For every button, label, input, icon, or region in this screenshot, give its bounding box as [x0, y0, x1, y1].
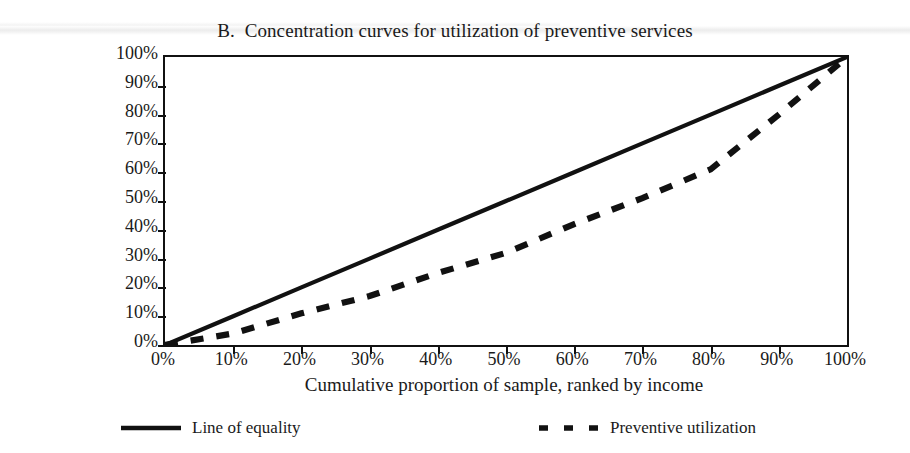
x-tick-label: 80%: [692, 349, 725, 370]
y-tick-label: 10%: [86, 302, 158, 323]
y-tick-label: 60%: [86, 158, 158, 179]
y-tick-label: 100%: [86, 43, 158, 64]
x-tick-label: 0%: [151, 349, 175, 370]
x-tick-label: 100%: [824, 349, 866, 370]
y-tick-label: 50%: [86, 187, 158, 208]
x-tick-label: 70%: [624, 349, 657, 370]
y-tick-label: 80%: [86, 101, 158, 122]
plot-area: [163, 55, 849, 347]
chart-legend: Line of equality Preventive utilization: [120, 415, 860, 441]
legend-label-line-of-equality: Line of equality: [192, 418, 301, 438]
legend-swatch-dashed-line: [538, 421, 600, 435]
figure-panel-b: B. Concentration curves for utilization …: [0, 0, 910, 453]
x-axis-title: Cumulative proportion of sample, ranked …: [163, 374, 845, 396]
solid-line-icon: [120, 421, 182, 435]
y-axis-tick: [158, 201, 166, 203]
y-axis-tick: [158, 287, 166, 289]
y-tick-label: 70%: [86, 129, 158, 150]
x-axis-tick-labels: 0%10%20%30%40%50%60%70%80%90%100%: [163, 349, 845, 375]
y-axis-tick: [158, 143, 166, 145]
legend-swatch-solid-line: [120, 421, 182, 435]
x-tick-label: 50%: [488, 349, 521, 370]
dashed-line-icon: [538, 421, 600, 435]
y-axis-tick: [158, 316, 166, 318]
x-tick-label: 30%: [351, 349, 384, 370]
x-tick-label: 60%: [556, 349, 589, 370]
y-tick-label: 30%: [86, 245, 158, 266]
y-axis-tick: [158, 172, 166, 174]
y-axis-tick: [158, 345, 166, 347]
legend-item-preventive-utilization: Preventive utilization: [538, 415, 756, 441]
x-tick-label: 90%: [760, 349, 793, 370]
x-tick-label: 20%: [283, 349, 316, 370]
curves-svg: [165, 57, 847, 345]
y-axis-tick: [158, 115, 166, 117]
legend-label-preventive-utilization: Preventive utilization: [610, 418, 756, 438]
y-axis-tick-labels: 100%90%80%70%60%50%40%30%20%10%0%: [86, 45, 158, 353]
x-tick-label: 40%: [419, 349, 452, 370]
legend-item-line-of-equality: Line of equality: [120, 415, 301, 441]
y-axis-tick: [158, 230, 166, 232]
line-of-equality-curve: [165, 57, 847, 345]
y-tick-label: 90%: [86, 72, 158, 93]
y-tick-label: 20%: [86, 273, 158, 294]
y-tick-label: 40%: [86, 216, 158, 237]
x-tick-label: 10%: [215, 349, 248, 370]
chart-title: B. Concentration curves for utilization …: [0, 20, 910, 42]
y-axis-tick: [158, 86, 166, 88]
y-axis-tick: [158, 259, 166, 261]
y-tick-label: 0%: [86, 331, 158, 352]
